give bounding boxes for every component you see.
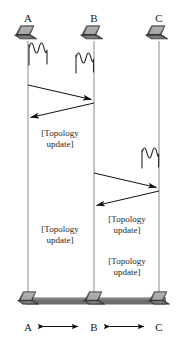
annotation-line-2: update] [114, 225, 141, 235]
node-c-top: C [146, 12, 168, 39]
diagram-svg: A B C [0, 0, 186, 339]
annotation-line-1: [Topology [108, 256, 146, 266]
annotation-topology-update-4: [Topology update] [108, 256, 146, 277]
message-arrow-a-to-b [28, 85, 92, 100]
sequence-diagram-canvas: A B C [0, 0, 186, 339]
message-arrow-b-to-c [94, 173, 157, 188]
annotation-topology-update-1: [Topology update] [41, 128, 79, 149]
laptop-icon [146, 26, 168, 39]
annotation-topology-update-2: [Topology update] [108, 214, 146, 235]
laptop-icon [149, 292, 170, 304]
node-c-bottom-label: C [155, 321, 162, 333]
annotation-line-2: update] [114, 267, 141, 277]
radio-wave-icon [76, 53, 94, 73]
node-b-top-label: B [90, 12, 97, 24]
annotation-line-2: update] [47, 139, 74, 149]
node-c-bottom: C [149, 292, 170, 333]
laptop-icon [81, 26, 103, 39]
radio-wave-icon [29, 43, 47, 65]
annotation-topology-update-3: [Topology update] [41, 224, 79, 245]
message-arrow-b-to-a [31, 103, 95, 118]
node-a-bottom-label: A [24, 321, 32, 333]
annotation-line-1: [Topology [108, 214, 146, 224]
radio-wave-icon [142, 148, 159, 168]
node-a-top: A [15, 12, 37, 39]
annotation-line-2: update] [47, 235, 74, 245]
node-b-top: B [81, 12, 103, 39]
node-a-top-label: A [24, 12, 32, 24]
annotation-line-1: [Topology [41, 128, 79, 138]
annotation-line-1: [Topology [41, 224, 79, 234]
message-arrow-c-to-b [97, 191, 160, 206]
node-b-bottom-label: B [90, 321, 97, 333]
node-c-top-label: C [155, 12, 162, 24]
laptop-icon [15, 26, 37, 39]
